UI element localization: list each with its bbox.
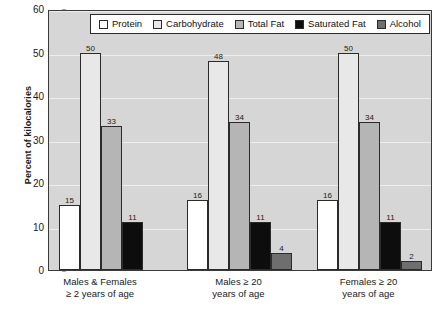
bar: 15 — [59, 205, 80, 270]
bar-value-label: 4 — [279, 245, 283, 253]
bar-value-label: 34 — [235, 114, 244, 122]
y-tick-label: 50 — [18, 49, 44, 59]
bar: 11 — [122, 222, 143, 270]
bar: 34 — [229, 122, 250, 270]
y-tick-label: 10 — [18, 223, 44, 233]
bar-chart: Percent of kilocalories 0102030405060 15… — [0, 0, 445, 313]
bar: 48 — [208, 61, 229, 270]
bars-layer: 15503311164834114165034112 — [49, 11, 431, 270]
bar: 16 — [187, 200, 208, 270]
x-axis-group-label-line2: ≥ 2 years of age — [30, 288, 170, 300]
y-tick-label: 20 — [18, 179, 44, 189]
bar-value-label: 2 — [409, 253, 413, 261]
bar-value-label: 48 — [214, 53, 223, 61]
x-axis-group-label-line2: years of age — [299, 288, 439, 300]
legend-swatch-icon — [377, 20, 386, 29]
x-axis-group-label-line2: years of age — [169, 288, 309, 300]
legend-label: Alcohol — [390, 19, 421, 29]
legend-item: Total Fat — [235, 19, 284, 29]
bar: 4 — [271, 253, 292, 270]
x-axis-group-label-line1: Females ≥ 20 — [299, 276, 439, 288]
legend-label: Total Fat — [248, 19, 284, 29]
chart-legend: ProteinCarbohydrateTotal FatSaturated Fa… — [90, 14, 430, 34]
legend-item: Alcohol — [377, 19, 421, 29]
bar-value-label: 50 — [344, 45, 353, 53]
y-tick-label: 0 — [18, 266, 44, 276]
x-axis-labels: Males & Females≥ 2 years of ageMales ≥ 2… — [48, 276, 432, 310]
legend-swatch-icon — [235, 20, 244, 29]
legend-swatch-icon — [99, 20, 108, 29]
legend-item: Carbohydrate — [153, 19, 224, 29]
legend-item: Protein — [99, 19, 142, 29]
bar-value-label: 16 — [323, 192, 332, 200]
y-tick-label: 40 — [18, 92, 44, 102]
legend-swatch-icon — [153, 20, 162, 29]
bar: 50 — [338, 53, 359, 271]
x-axis-group-label: Females ≥ 20years of age — [299, 276, 439, 300]
bar: 34 — [359, 122, 380, 270]
bar-value-label: 11 — [256, 214, 264, 222]
bar: 2 — [401, 261, 422, 270]
legend-item: Saturated Fat — [295, 19, 366, 29]
plot-area: 15503311164834114165034112 — [48, 10, 432, 271]
bar: 11 — [380, 222, 401, 270]
bar-value-label: 50 — [86, 45, 95, 53]
bar-value-label: 33 — [107, 118, 116, 126]
x-axis-group-label-line1: Males & Females — [30, 276, 170, 288]
legend-label: Carbohydrate — [166, 19, 224, 29]
y-tick-label: 60 — [18, 5, 44, 15]
bar-value-label: 34 — [365, 114, 374, 122]
x-axis-group-label-line1: Males ≥ 20 — [169, 276, 309, 288]
bar: 50 — [80, 53, 101, 271]
x-axis-group-label: Males & Females≥ 2 years of age — [30, 276, 170, 300]
bar: 33 — [101, 126, 122, 270]
y-axis-ticks: 0102030405060 — [18, 10, 44, 271]
y-tick-label: 30 — [18, 136, 44, 146]
x-axis-group-label: Males ≥ 20years of age — [169, 276, 309, 300]
bar: 11 — [250, 222, 271, 270]
legend-swatch-icon — [295, 20, 304, 29]
legend-label: Protein — [112, 19, 142, 29]
legend-label: Saturated Fat — [308, 19, 366, 29]
bar-value-label: 11 — [128, 214, 136, 222]
bar-value-label: 15 — [65, 197, 74, 205]
bar-value-label: 11 — [386, 214, 394, 222]
bar: 16 — [317, 200, 338, 270]
bar-value-label: 16 — [193, 192, 202, 200]
